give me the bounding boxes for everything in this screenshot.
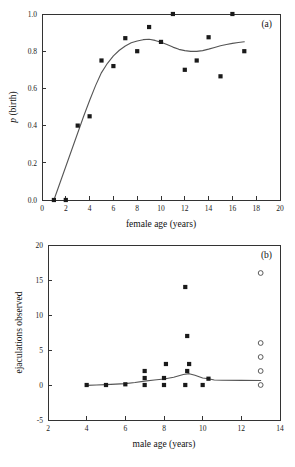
y-tick-label: 0.4: [28, 121, 38, 130]
panel-b-ejaculations: 2468101214-505101520male age (years)ejac…: [0, 233, 295, 467]
data-point-filled: [201, 383, 205, 387]
data-point-filled: [171, 12, 175, 16]
data-point-filled: [230, 12, 234, 16]
data-point-filled: [99, 58, 103, 62]
data-point-open: [258, 369, 263, 374]
data-point-filled: [147, 25, 151, 29]
data-point-filled: [88, 114, 92, 118]
x-tick-label: 10: [157, 204, 165, 213]
y-tick-label: -5: [37, 416, 43, 425]
data-point-filled: [52, 198, 56, 202]
data-point-filled: [183, 383, 187, 387]
x-tick-label: 2: [64, 204, 68, 213]
data-point-filled: [164, 362, 168, 366]
x-tick-label: 6: [112, 204, 116, 213]
x-tick-label: 8: [135, 204, 139, 213]
data-point-filled: [143, 376, 147, 380]
x-tick-label: 16: [229, 204, 237, 213]
data-point-filled: [135, 49, 139, 53]
y-tick-label: 0.0: [28, 196, 38, 205]
y-axis-title: p (birth): [8, 91, 19, 123]
y-tick-label: 20: [36, 241, 44, 250]
x-tick-label: 10: [199, 424, 207, 433]
data-point-open: [258, 341, 263, 346]
data-point-filled: [183, 68, 187, 72]
data-point-filled: [185, 369, 189, 373]
data-point-filled: [162, 383, 166, 387]
x-axis-title: male age (years): [133, 439, 196, 450]
data-point-open: [258, 383, 263, 388]
data-point-filled: [242, 49, 246, 53]
data-point-filled: [143, 369, 147, 373]
x-tick-label: 18: [252, 204, 260, 213]
fit-line: [87, 374, 261, 386]
x-tick-label: 12: [238, 424, 246, 433]
panel-b-plot: 2468101214-505101520male age (years)ejac…: [0, 233, 295, 467]
y-tick-label: 0: [39, 381, 43, 390]
data-point-filled: [111, 64, 115, 68]
x-tick-label: 14: [276, 424, 284, 433]
x-tick-label: 2: [46, 424, 50, 433]
panel-a-plot: 024681012141618200.00.20.40.60.81.0femal…: [0, 0, 295, 234]
x-tick-label: 4: [88, 204, 92, 213]
y-tick-label: 10: [36, 311, 44, 320]
x-tick-label: 6: [123, 424, 127, 433]
y-tick-label: 15: [36, 276, 44, 285]
y-tick-label: 0.8: [28, 47, 38, 56]
data-point-filled: [64, 198, 68, 202]
x-tick-label: 8: [162, 424, 166, 433]
data-point-filled: [183, 285, 187, 289]
x-tick-label: 4: [85, 424, 89, 433]
data-point-filled: [185, 334, 189, 338]
data-point-filled: [195, 58, 199, 62]
panel-label: (b): [261, 250, 272, 261]
data-point-filled: [123, 382, 127, 386]
y-axis-title: ejaculations observed: [14, 291, 24, 373]
data-point-filled: [207, 35, 211, 39]
y-tick-label: 0.2: [28, 159, 38, 168]
data-point-filled: [85, 383, 89, 387]
figure-container: 024681012141618200.00.20.40.60.81.0femal…: [0, 0, 295, 467]
data-point-filled: [143, 383, 147, 387]
x-tick-label: 0: [40, 204, 44, 213]
data-point-filled: [206, 377, 210, 381]
data-point-filled: [123, 36, 127, 40]
data-point-open: [258, 355, 263, 360]
panel-a-birth-probability: 024681012141618200.00.20.40.60.81.0femal…: [0, 0, 295, 234]
data-point-filled: [162, 376, 166, 380]
x-tick-label: 12: [181, 204, 189, 213]
data-point-filled: [218, 74, 222, 78]
y-tick-label: 1.0: [28, 10, 38, 19]
x-tick-label: 20: [276, 204, 284, 213]
x-axis-title: female age (years): [126, 219, 196, 230]
data-point-filled: [187, 362, 191, 366]
data-point-filled: [76, 124, 80, 128]
y-tick-label: 0.6: [28, 84, 38, 93]
fit-line: [54, 39, 244, 200]
plot-frame: [48, 245, 280, 420]
data-point-filled: [159, 40, 163, 44]
data-point-open: [258, 271, 263, 276]
x-tick-label: 14: [205, 204, 213, 213]
y-tick-label: 5: [39, 346, 43, 355]
panel-label: (a): [261, 19, 272, 30]
data-point-filled: [104, 383, 108, 387]
